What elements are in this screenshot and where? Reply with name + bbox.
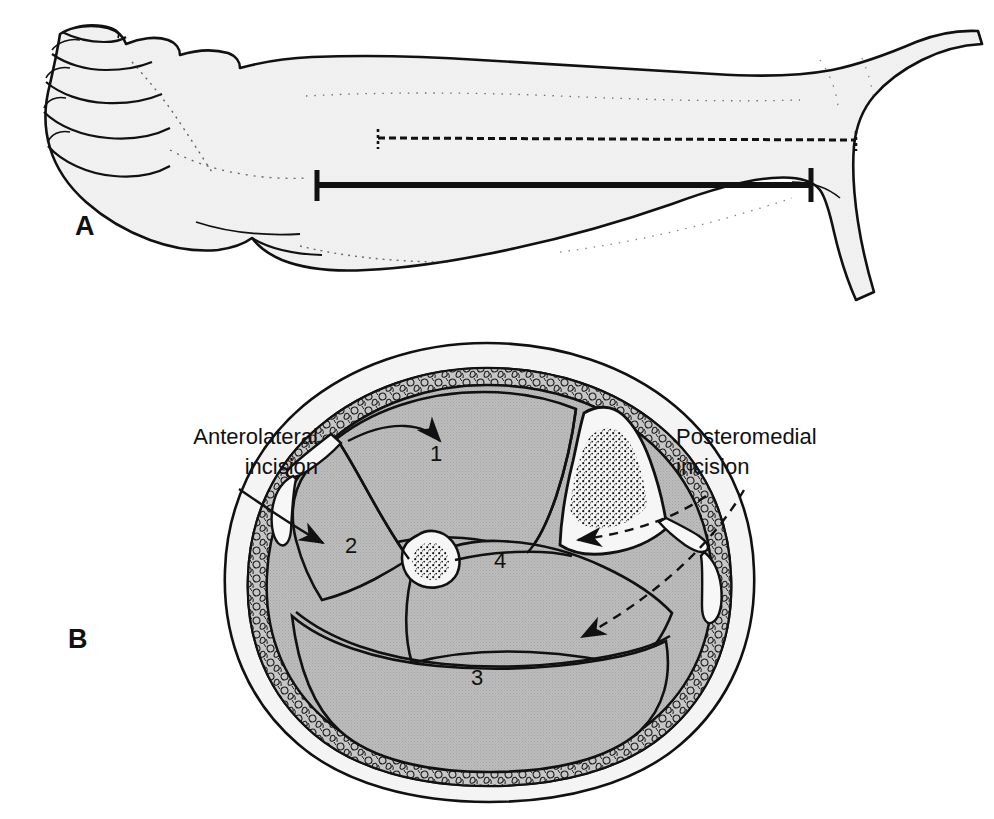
panel-b-letter: B xyxy=(68,624,88,654)
anatomical-figure: A xyxy=(0,0,994,819)
posteromedial-incision-label-line1: Posteromedial xyxy=(676,424,817,449)
panel-a-letter: A xyxy=(75,211,95,241)
compartment-number-1: 1 xyxy=(430,441,442,466)
figure-root: A xyxy=(0,0,994,819)
compartment-number-4: 4 xyxy=(494,548,506,573)
anterolateral-incision-label-line2: incision xyxy=(245,454,318,479)
fibula xyxy=(402,531,460,588)
posteromedial-incision-label-line2: incision xyxy=(676,454,749,479)
anterolateral-incision-label-line1: Anterolateral xyxy=(193,424,318,449)
compartment-number-3: 3 xyxy=(471,665,483,690)
compartment-number-2: 2 xyxy=(345,533,357,558)
